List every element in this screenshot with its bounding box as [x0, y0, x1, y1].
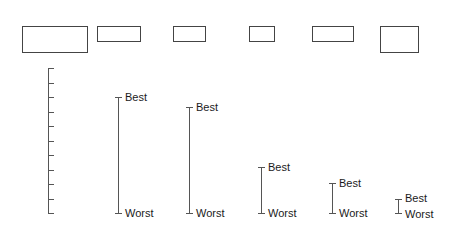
range-bar-car-parking: [398, 199, 399, 214]
y-axis-tick: [48, 83, 54, 84]
y-axis-tick: [48, 126, 54, 127]
range-cap-best: [329, 183, 336, 184]
worst-label-image: Worst: [196, 207, 225, 219]
y-axis-tick: [48, 141, 54, 142]
y-axis-tick: [48, 170, 54, 171]
range-cap-worst: [258, 213, 265, 214]
criterion-label-visibility: [97, 26, 141, 42]
worst-label-visibility: Worst: [125, 207, 154, 219]
y-axis-tick: [48, 155, 54, 156]
criterion-label-closeness: [22, 26, 88, 53]
range-bar-size: [261, 167, 262, 214]
y-axis-tick: [48, 112, 54, 113]
best-label-car-parking: Best: [405, 192, 427, 204]
best-label-size: Best: [268, 161, 290, 173]
range-bar-comfort: [332, 183, 333, 214]
worst-label-comfort: Worst: [339, 207, 368, 219]
criterion-label-car-parking: [380, 26, 419, 53]
range-bar-visibility: [118, 97, 119, 214]
range-bar-image: [189, 107, 190, 214]
range-cap-best: [395, 199, 402, 200]
criterion-label-image: [173, 26, 206, 42]
y-axis-tick: [48, 97, 54, 98]
criterion-label-comfort: [312, 26, 354, 42]
worst-label-size: Worst: [268, 207, 297, 219]
worst-label-car-parking: Worst: [405, 208, 434, 220]
range-cap-worst: [115, 213, 122, 214]
range-cap-best: [258, 167, 265, 168]
y-axis-tick: [48, 213, 54, 214]
y-axis-tick: [48, 184, 54, 185]
range-cap-best: [115, 97, 122, 98]
y-axis-tick: [48, 68, 54, 69]
best-label-comfort: Best: [339, 177, 361, 189]
best-label-visibility: Best: [125, 91, 147, 103]
range-cap-worst: [186, 213, 193, 214]
y-axis-tick: [48, 199, 54, 200]
criterion-label-size: [249, 26, 275, 42]
range-cap-worst: [329, 213, 336, 214]
best-label-image: Best: [196, 101, 218, 113]
range-cap-worst: [395, 213, 402, 214]
range-cap-best: [186, 107, 193, 108]
